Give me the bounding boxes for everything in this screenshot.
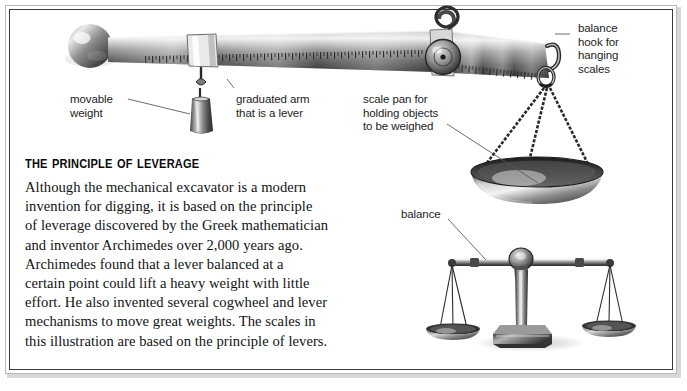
callout-scale-pan: scale pan for holding objects to be weig… xyxy=(363,93,438,134)
frame-drop-shadow-bottom xyxy=(7,374,681,378)
callout-graduated-arm: graduated arm that is a lever xyxy=(236,93,310,120)
callout-balance: balance xyxy=(401,208,441,222)
callout-balance-hook: balance hook for hanging scales xyxy=(578,22,619,76)
article-heading: The Principle of Leverage xyxy=(25,153,341,171)
callout-movable-weight: movable weight xyxy=(70,93,113,120)
article-body: Although the mechanical excavator is a m… xyxy=(25,178,369,351)
frame-drop-shadow-right xyxy=(677,7,681,377)
illustration-page: balance hook for hanging scales movable … xyxy=(0,0,687,391)
article-text-block: The Principle of Leverage Although the m… xyxy=(25,153,369,351)
